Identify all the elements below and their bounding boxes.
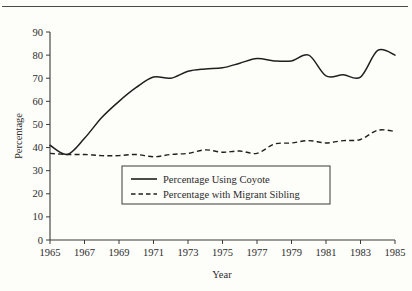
series-line-coyote	[50, 49, 395, 154]
x-tick-label: 1979	[281, 247, 302, 258]
x-tick-label: 1985	[385, 247, 406, 258]
legend-label-coyote: Percentage Using Coyote	[163, 174, 270, 185]
y-tick-label: 50	[33, 119, 44, 130]
x-tick-label: 1973	[178, 247, 199, 258]
y-tick-labels: 0102030405060708090	[33, 27, 44, 246]
x-tick-label: 1975	[212, 247, 233, 258]
legend-label-migrant-sibling: Percentage with Migrant Sibling	[163, 189, 301, 200]
x-tick-labels: 1965196719691971197319751977197919811983…	[40, 247, 406, 258]
data-series-group	[50, 49, 395, 156]
line-chart: 0102030405060708090 Percentage 196519671…	[0, 0, 412, 291]
x-axis-group: 1965196719691971197319751977197919811983…	[40, 240, 406, 280]
y-tick-marks	[46, 32, 50, 240]
y-axis-title: Percentage	[13, 113, 24, 159]
x-axis-title: Year	[212, 269, 232, 280]
y-tick-label: 70	[33, 73, 44, 84]
y-tick-label: 10	[33, 211, 44, 222]
x-tick-label: 1977	[247, 247, 268, 258]
y-tick-label: 30	[33, 165, 44, 176]
y-tick-label: 60	[33, 96, 44, 107]
x-tick-marks	[50, 240, 395, 244]
x-tick-label: 1967	[74, 247, 95, 258]
y-tick-label: 90	[33, 27, 44, 38]
x-tick-label: 1981	[316, 247, 337, 258]
y-tick-label: 80	[33, 50, 44, 61]
y-tick-label: 40	[33, 142, 44, 153]
x-tick-label: 1969	[109, 247, 130, 258]
legend: Percentage Using Coyote Percentage with …	[122, 166, 330, 204]
figure-container: 0102030405060708090 Percentage 196519671…	[0, 0, 412, 291]
x-tick-label: 1965	[40, 247, 61, 258]
y-tick-label: 0	[38, 235, 43, 246]
x-tick-label: 1971	[143, 247, 164, 258]
series-line-migrant-sibling	[50, 130, 395, 157]
y-tick-label: 20	[33, 188, 44, 199]
x-tick-label: 1983	[350, 247, 371, 258]
y-axis-group: 0102030405060708090 Percentage	[13, 27, 50, 246]
